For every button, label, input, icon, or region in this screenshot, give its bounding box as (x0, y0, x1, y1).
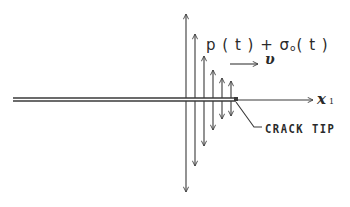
leader-line (236, 102, 262, 127)
axis-label-subscript: 1 (329, 97, 334, 106)
x1-axis-label: x1 (317, 90, 334, 108)
formula-main: p ( t ) + σ (206, 36, 290, 54)
crack-diagram (0, 0, 350, 207)
crack-tip-leader-line (236, 102, 262, 127)
velocity-label: υ (265, 51, 275, 67)
axis-label-main: x (317, 90, 326, 108)
crack-tip-label: CRACK TIP (265, 121, 335, 135)
formula-tail: ( t ) (297, 36, 329, 54)
